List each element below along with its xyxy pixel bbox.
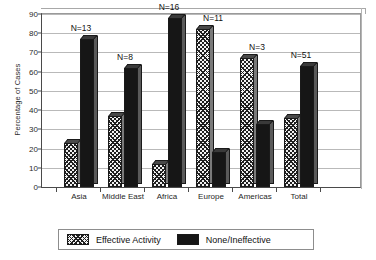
bar-europe-none-ineffective: [212, 152, 226, 187]
bar-side-face: [138, 65, 142, 184]
bar-side-face: [270, 121, 274, 184]
legend-label-none-ineffective: None/Ineffective: [206, 235, 271, 245]
x-axis-tick-mark: [188, 187, 189, 192]
x-axis-label-total: Total: [291, 192, 308, 201]
bar-middle-east-effective-activity: [108, 116, 122, 187]
bar-total-effective-activity: [284, 118, 298, 187]
y-axis-tick-mark: [38, 148, 42, 149]
y-axis-tick-label: 60: [29, 67, 38, 76]
legend-item-none-ineffective: None/Ineffective: [177, 230, 271, 249]
legend-swatch-hatch-icon: [67, 234, 89, 245]
n-annotation-total: N=51: [291, 50, 312, 60]
x-axis-label-asia: Asia: [71, 192, 87, 201]
bar-front-face: [152, 164, 166, 187]
y-axis-tick-label: 80: [29, 29, 38, 38]
y-axis-tick-mark: [38, 90, 42, 91]
y-axis-tick-label: 70: [29, 48, 38, 57]
n-annotation-asia: N=13: [71, 23, 92, 33]
bar-front-face: [80, 39, 94, 187]
bar-front-face: [256, 124, 270, 187]
bar-front-face: [240, 58, 254, 187]
bar-asia-effective-activity: [64, 143, 78, 187]
bar-total-none-ineffective: [300, 66, 314, 187]
bar-front-face: [300, 66, 314, 187]
x-axis-label-africa: Africa: [157, 192, 177, 201]
n-annotation-africa: N=16: [159, 2, 180, 12]
bar-asia-none-ineffective: [80, 39, 94, 187]
bar-americas-none-ineffective: [256, 124, 270, 187]
plot-frame-right-shelf: [361, 8, 367, 189]
y-axis-title: Percentage of Cases: [13, 35, 22, 165]
y-axis-tick-mark: [38, 52, 42, 53]
bar-front-face: [64, 143, 78, 187]
legend-swatch-solid-icon: [177, 234, 199, 245]
x-axis-tick-mark: [56, 187, 57, 192]
bar-side-face: [314, 63, 318, 184]
bar-front-face: [212, 152, 226, 187]
chart-legend: Effective Activity None/Ineffective: [58, 229, 314, 250]
bar-front-face: [284, 118, 298, 187]
y-axis-tick-label: 30: [29, 125, 38, 134]
n-annotation-europe: N=11: [203, 13, 223, 23]
x-axis-label-middle-east: Middle East: [102, 192, 144, 201]
bar-africa-effective-activity: [152, 164, 166, 187]
legend-item-effective-activity: Effective Activity: [67, 230, 161, 249]
y-axis-tick-label: 0: [34, 183, 38, 192]
bar-front-face: [168, 18, 182, 187]
y-axis-tick-label: 10: [29, 163, 38, 172]
n-annotation-middle-east: N=8: [117, 52, 133, 62]
x-axis-tick-mark: [276, 187, 277, 192]
y-axis-tick-mark: [38, 110, 42, 111]
bar-front-face: [124, 68, 138, 187]
bar-front-face: [196, 29, 210, 187]
gridline: [42, 14, 360, 15]
y-axis-tick-mark: [38, 33, 42, 34]
bar-side-face: [182, 15, 186, 184]
n-annotation-americas: N=3: [249, 42, 265, 52]
bar-europe-effective-activity: [196, 29, 210, 187]
y-axis-tick-label: 40: [29, 106, 38, 115]
bar-side-face: [226, 149, 230, 184]
x-axis-tick-mark: [320, 187, 321, 192]
y-axis-tick-mark: [38, 71, 42, 72]
y-axis-tick-label: 50: [29, 86, 38, 95]
bar-side-face: [94, 36, 98, 184]
bar-americas-effective-activity: [240, 58, 254, 187]
x-axis-label-europe: Europe: [198, 192, 224, 201]
y-axis-tick-label: 90: [29, 10, 38, 19]
plot-area: 0102030405060708090N=13N=8N=16N=11N=3N=5…: [41, 13, 361, 188]
bar-middle-east-none-ineffective: [124, 68, 138, 187]
x-axis-tick-mark: [144, 187, 145, 192]
y-axis-tick-mark: [38, 167, 42, 168]
y-axis-tick-mark: [38, 187, 42, 188]
bar-front-face: [108, 116, 122, 187]
x-axis-label-americas: Americas: [238, 192, 271, 201]
y-axis-tick-label: 20: [29, 144, 38, 153]
x-axis-tick-mark: [232, 187, 233, 192]
bar-chart: Percentage of Cases 0102030405060708090N…: [0, 0, 376, 260]
y-axis-tick-mark: [38, 129, 42, 130]
x-axis-tick-mark: [100, 187, 101, 192]
legend-label-effective-activity: Effective Activity: [96, 235, 161, 245]
bar-africa-none-ineffective: [168, 18, 182, 187]
y-axis-tick-mark: [38, 14, 42, 15]
